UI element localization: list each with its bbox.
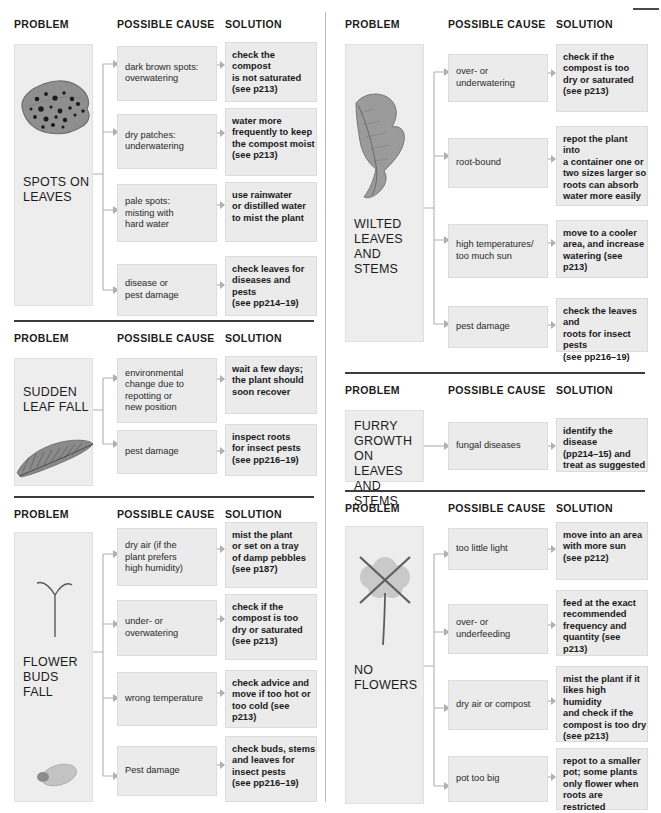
cause-text: pest damage: [125, 446, 215, 458]
cause-box[interactable]: too little light: [448, 528, 548, 570]
arrow-icon: [217, 60, 225, 70]
solution-box[interactable]: use rainwater or distilled water to mist…: [225, 182, 317, 242]
solution-box[interactable]: check advice and move if too hot or too …: [225, 670, 317, 728]
section-divider: [345, 372, 645, 374]
header-solution: SOLUTION: [225, 18, 282, 30]
problem-panel-wilted-leaves-and-stems[interactable]: WILTED LEAVES AND STEMS: [345, 44, 424, 342]
cause-box[interactable]: over- or underfeeding: [448, 604, 548, 654]
solution-text: feed at the exact recommended frequency …: [563, 598, 647, 655]
cause-box[interactable]: root-bound: [448, 138, 548, 188]
cause-box[interactable]: pale spots: misting with hard water: [117, 184, 217, 242]
arrow-icon: [217, 200, 225, 210]
problem-panel-spots-on-leaves[interactable]: SPOTS ON LEAVES: [14, 44, 93, 306]
cause-box[interactable]: high temperatures/ too much sun: [448, 224, 548, 278]
cause-box[interactable]: dry patches: underwatering: [117, 114, 217, 169]
solution-box[interactable]: check if the compost is too dry or satur…: [556, 44, 648, 112]
solution-box[interactable]: check buds, stems and leaves for insect …: [225, 736, 317, 802]
solution-box[interactable]: check the leaves and roots for insect pe…: [556, 298, 648, 352]
connector-trunk-6: [424, 526, 450, 806]
problem-label-wilted-leaves-and-stems: WILTED LEAVES AND STEMS: [354, 217, 403, 277]
solution-box[interactable]: check if the compost is too dry or satur…: [225, 594, 317, 660]
cause-box[interactable]: wrong temperature: [117, 672, 217, 726]
drooping-bud-icon: [15, 569, 92, 641]
solution-box[interactable]: feed at the exact recommended frequency …: [556, 590, 648, 656]
cause-box[interactable]: pest damage: [117, 430, 217, 474]
solution-box[interactable]: inspect roots for insect pests (see pp21…: [225, 424, 317, 476]
problem-label-sudden-leaf-fall: SUDDEN LEAF FALL: [23, 385, 89, 415]
cause-box[interactable]: pot too big: [448, 756, 548, 802]
header-problem: PROBLEM: [345, 502, 400, 514]
section-divider: [14, 496, 314, 498]
cause-text: over- or underwatering: [456, 66, 546, 89]
arrow-icon: [217, 688, 225, 698]
solution-box[interactable]: wait a few days; the plant should soon r…: [225, 356, 317, 414]
cause-text: over- or underfeeding: [456, 617, 546, 640]
solution-text: inspect roots for insect pests (see pp21…: [232, 432, 316, 466]
problem-panel-sudden-leaf-fall[interactable]: SUDDEN LEAF FALL: [14, 358, 93, 486]
solution-box[interactable]: repot to a smaller pot; some plants only…: [556, 748, 648, 810]
cause-box[interactable]: environmental change due to repotting or…: [117, 358, 217, 423]
solution-text: water more frequently to keep the compos…: [232, 116, 316, 162]
solution-box[interactable]: move to a cooler area, and increase wate…: [556, 220, 648, 278]
solution-box[interactable]: check leaves for diseases and pests (see…: [225, 256, 317, 316]
cause-text: root-bound: [456, 157, 546, 169]
arrow-icon: [217, 374, 225, 384]
header-solution: SOLUTION: [225, 332, 282, 344]
solution-box[interactable]: mist the plant if it likes high humidity…: [556, 666, 648, 742]
cause-text: Pest damage: [125, 765, 215, 777]
cause-box[interactable]: Pest damage: [117, 746, 217, 796]
cause-box[interactable]: disease or pest damage: [117, 264, 217, 316]
header-cause: POSSIBLE CAUSE: [117, 508, 215, 520]
problem-panel-flower-buds-fall[interactable]: FLOWER BUDS FALL: [14, 532, 93, 802]
arrow-icon: [217, 128, 225, 138]
cause-text: dry air or compost: [456, 699, 546, 711]
problem-panel-no-flowers[interactable]: NO FLOWERS: [345, 526, 424, 804]
header-problem: PROBLEM: [14, 508, 69, 520]
cause-text: wrong temperature: [125, 693, 215, 705]
cause-text: pale spots: misting with hard water: [125, 196, 215, 231]
arrow-icon: [548, 696, 556, 706]
solution-box[interactable]: move into an area with more sun (see p21…: [556, 522, 648, 580]
solution-box[interactable]: check the compost is not saturated (see …: [225, 42, 317, 102]
section-divider: [14, 320, 314, 322]
arrow-icon: [217, 280, 225, 290]
cause-box[interactable]: under- or overwatering: [117, 600, 217, 656]
cause-box[interactable]: over- or underwatering: [448, 54, 548, 102]
cause-text: under- or overwatering: [125, 616, 215, 639]
cause-box[interactable]: dark brown spots: overwatering: [117, 46, 217, 101]
cause-text: environmental change due to repotting or…: [125, 367, 215, 413]
connector-trunk-5: [424, 410, 450, 482]
cause-box[interactable]: fungal diseases: [448, 422, 548, 470]
cause-box[interactable]: dry air or compost: [448, 680, 548, 730]
solution-text: wait a few days; the plant should soon r…: [232, 364, 316, 398]
solution-text: check leaves for diseases and pests (see…: [232, 264, 316, 310]
solution-text: use rainwater or distilled water to mist…: [232, 190, 316, 224]
header-solution: SOLUTION: [556, 384, 613, 396]
cause-box[interactable]: pest damage: [448, 306, 548, 348]
solution-text: check if the compost is too dry or satur…: [563, 52, 647, 98]
cause-text: dry air (if the plant prefers high humid…: [125, 540, 215, 575]
solution-box[interactable]: identify the disease (pp214–15) and trea…: [556, 418, 648, 472]
solution-box[interactable]: mist the plant or set on a tray of damp …: [225, 522, 317, 588]
solution-text: repot to a smaller pot; some plants only…: [563, 756, 647, 813]
header-solution: SOLUTION: [225, 508, 282, 520]
connector-trunk-3: [93, 532, 119, 804]
header-cause: POSSIBLE CAUSE: [117, 332, 215, 344]
header-cause: POSSIBLE CAUSE: [448, 18, 546, 30]
header-problem: PROBLEM: [14, 18, 69, 30]
solution-box[interactable]: water more frequently to keep the compos…: [225, 108, 317, 176]
cause-box[interactable]: dry air (if the plant prefers high humid…: [117, 528, 217, 586]
connector-trunk-1: [93, 44, 119, 306]
header-solution: SOLUTION: [556, 18, 613, 30]
cause-text: dry patches: underwatering: [125, 130, 215, 153]
header-row: PROBLEM POSSIBLE CAUSE SOLUTION: [337, 18, 655, 34]
header-row: PROBLEM POSSIBLE CAUSE SOLUTION: [6, 332, 324, 348]
arrow-icon: [548, 544, 556, 554]
problem-panel-furry-growth[interactable]: FURRY GROWTH ON LEAVES AND STEMS: [345, 410, 424, 482]
cause-text: high temperatures/ too much sun: [456, 239, 546, 262]
cause-text: fungal diseases: [456, 440, 546, 452]
header-cause: POSSIBLE CAUSE: [117, 18, 215, 30]
solution-box[interactable]: repot the plant into a container one or …: [556, 126, 648, 206]
arrow-icon: [217, 760, 225, 770]
connector-trunk-2: [93, 358, 119, 486]
